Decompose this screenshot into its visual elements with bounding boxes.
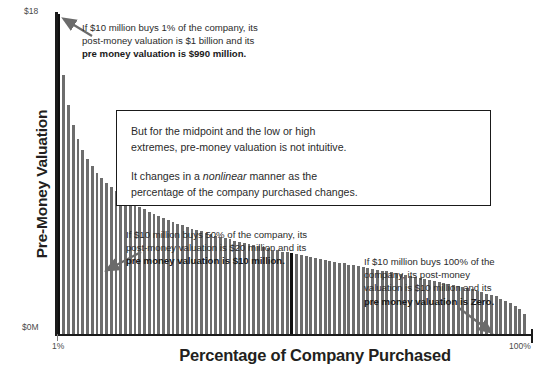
annotation-hundred-percent-line3: valuation is $10 million and its xyxy=(364,282,491,293)
callout-p1-line2: extremes, pre-money valuation is not int… xyxy=(131,141,347,153)
chart-canvas: $18 $0M 1% 100% Pre-Money Valuation Perc… xyxy=(0,0,543,387)
bar xyxy=(514,306,517,334)
bar xyxy=(67,105,70,334)
bar xyxy=(96,173,99,334)
bar xyxy=(314,258,317,334)
bar xyxy=(328,261,331,334)
x-axis-left-tick-label: 1% xyxy=(52,341,64,351)
bar xyxy=(509,303,512,334)
annotation-one-percent-line2: post-money valuation is $1 billion and i… xyxy=(82,35,254,46)
y-axis-top-tick-label: $18 xyxy=(24,6,38,16)
callout-p2-pre: It changes in a xyxy=(131,170,203,182)
callout-paragraph-2: It changes in a nonlinear manner as the … xyxy=(131,169,490,200)
bar xyxy=(77,139,80,334)
annotation-hundred-percent-line4: pre money valuation is Zero. xyxy=(364,296,494,307)
callout-box: But for the midpoint and the low or high… xyxy=(116,110,491,206)
bar xyxy=(305,256,308,334)
x-axis-right-tick-label: 100% xyxy=(509,341,531,351)
callout-p2-italic: nonlinear xyxy=(203,170,247,182)
bar xyxy=(58,14,61,334)
annotation-fifty-percent-line2: post-money valuation is $20 million and … xyxy=(126,242,306,253)
annotation-hundred-percent-line1: If $10 million buys 100% of the xyxy=(364,256,495,267)
annotation-hundred-percent: If $10 million buys 100% of the company,… xyxy=(364,255,524,308)
annotation-fifty-percent-line1: If $10 million buys 50% of the company, … xyxy=(126,229,307,240)
callout-p2-line2: percentage of the company purchased chan… xyxy=(131,186,358,198)
bar xyxy=(324,260,327,334)
callout-p2-post: manner as the xyxy=(246,170,317,182)
bar xyxy=(72,125,75,334)
bar xyxy=(518,309,521,334)
annotation-one-percent: If $10 million buys 1% of the company, i… xyxy=(82,21,307,61)
bar xyxy=(81,150,84,334)
callout-p1-line1: But for the midpoint and the low or high xyxy=(131,125,315,137)
bar xyxy=(62,75,65,334)
callout-paragraph-1: But for the midpoint and the low or high… xyxy=(131,124,490,155)
y-axis-title: Pre-Money Valuation xyxy=(33,79,51,289)
bar xyxy=(91,166,94,334)
bar xyxy=(523,314,526,334)
y-axis-bottom-tick-label: $0M xyxy=(22,322,39,332)
annotation-hundred-percent-line2: company, its post-money xyxy=(364,269,470,280)
annotation-fifty-percent-line3: pre money valuation is $10 million. xyxy=(126,255,285,266)
bar xyxy=(309,257,312,334)
bar xyxy=(333,262,336,334)
bar xyxy=(86,159,89,334)
arrow-to-last-bar-icon xyxy=(455,305,499,339)
annotation-one-percent-line1: If $10 million buys 1% of the company, i… xyxy=(82,22,258,33)
bar xyxy=(338,263,341,335)
bar xyxy=(319,259,322,334)
annotation-fifty-percent: If $10 million buys 50% of the company, … xyxy=(126,228,346,268)
annotation-one-percent-line3: pre money valuation is $990 million. xyxy=(82,48,246,59)
bar xyxy=(352,265,355,334)
bar xyxy=(347,265,350,335)
bar xyxy=(357,266,360,334)
bar xyxy=(343,263,346,334)
x-axis-title: Percentage of Company Purchased xyxy=(150,346,480,365)
